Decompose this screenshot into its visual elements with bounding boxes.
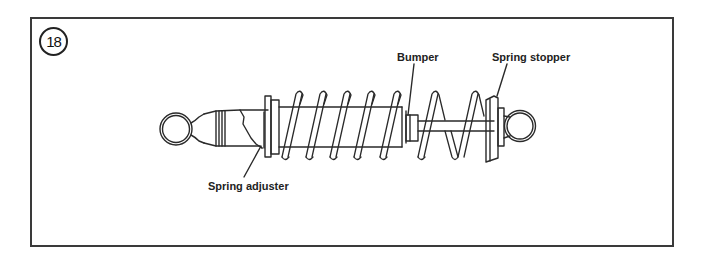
spring-stopper: [486, 96, 504, 162]
leader-line-spring-adjuster: [244, 146, 261, 177]
leader-line-bumper: [408, 64, 414, 115]
damper-body: [204, 110, 268, 148]
left-mounting-eye: [160, 113, 204, 145]
spring-adjuster: [265, 96, 279, 157]
leader-line-spring-stopper: [497, 64, 507, 96]
piston-rod: [418, 121, 494, 131]
right-mounting-eye: [504, 111, 536, 142]
coil-spring: [282, 91, 484, 159]
shock-absorber-drawing: [0, 0, 704, 263]
bumper: [406, 115, 418, 141]
